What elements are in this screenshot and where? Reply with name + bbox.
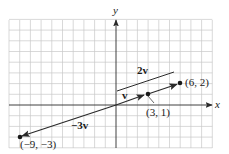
vector-neg-three-v [22,105,116,136]
label-point-3-1: (3, 1) [146,106,170,119]
point-3-1 [146,92,151,97]
label-point-6-2: (6, 2) [185,76,209,89]
label-point-neg9-neg3: (−9, −3) [20,138,57,151]
label-2v: 2v [137,64,149,76]
label-neg-3v: −3v [71,119,89,131]
x-axis-label: x [214,98,220,110]
label-v: v [122,89,128,101]
vector-diagram: x y v 2v −3v (3, 1) (6, 2) (−9, −3) [0,0,229,154]
point-3-1-leader [148,96,154,103]
vector-2v-segment [148,84,177,94]
point-6-2 [178,81,183,86]
y-axis-label: y [112,4,118,16]
vector-v [116,95,144,105]
